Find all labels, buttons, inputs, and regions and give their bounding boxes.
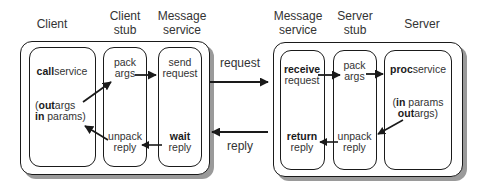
arrow-unpack-to-client — [85, 126, 108, 140]
arrow-proc-to-unpack — [378, 120, 403, 134]
arrow-call-to-pack — [83, 82, 111, 102]
arrows-layer — [0, 0, 479, 191]
